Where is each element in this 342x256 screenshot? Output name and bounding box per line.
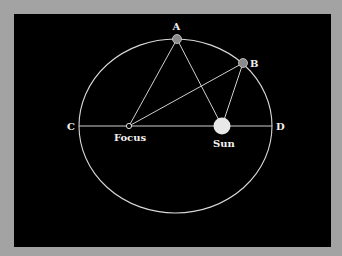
sun-icon [214,118,231,135]
label-d: D [276,121,285,132]
planet-a-icon [173,35,182,44]
label-c: C [67,121,75,132]
focus-marker-icon [126,123,131,128]
label-a: A [172,21,181,32]
label-sun: Sun [213,138,235,149]
planet-b-icon [239,59,248,68]
label-b: B [250,58,258,69]
sun-to-a-line [177,39,222,126]
orbit-diagram: A B C D Focus Sun [0,0,342,256]
label-focus: Focus [114,132,147,143]
